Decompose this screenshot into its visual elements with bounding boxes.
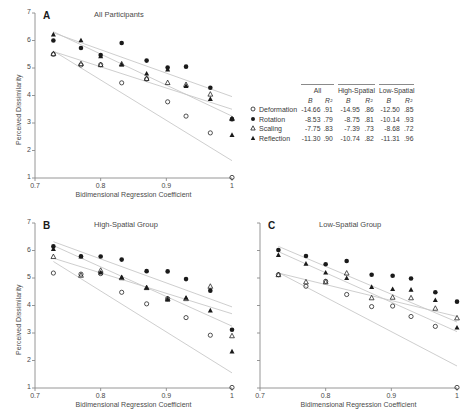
legend-low-b: -8.68 (377, 124, 401, 134)
data-point (455, 299, 460, 304)
legend-low-r2: .72 (401, 124, 417, 134)
data-point (144, 269, 149, 274)
legend-series-name: Reflection (259, 135, 290, 142)
data-point (98, 254, 103, 259)
data-point (230, 132, 235, 137)
legend-all-b: -11.30 (299, 134, 321, 144)
open-triangle-icon (250, 125, 259, 131)
y-tick-label: 1 (22, 383, 31, 390)
fit-line-deformation (53, 262, 232, 373)
data-point (304, 254, 309, 259)
y-tick-label: 2 (22, 356, 31, 363)
x-tick-label: 0.8 (92, 182, 110, 189)
data-point (120, 290, 124, 294)
legend-all-b: -8.53 (299, 115, 321, 125)
legend-row: Reflection-11.30.90-10.74.82-11.31.96 (247, 134, 416, 144)
y-tick-label: 5 (22, 273, 31, 280)
data-point (409, 314, 413, 318)
y-axis-label: Perceived Dissimilarity (15, 75, 22, 145)
x-tick-label: 1 (448, 392, 465, 399)
open-circle-icon (250, 106, 259, 112)
data-point (276, 248, 281, 253)
y-tick-label: 1 (22, 173, 31, 180)
panel-a: AAll Participants7654321Perceived Dissim… (0, 0, 240, 210)
data-point (184, 295, 189, 300)
y-tick-label: 6 (22, 246, 31, 253)
legend-subheader-r2-high: R² (361, 96, 377, 106)
panel-letter: C (268, 220, 275, 231)
data-point (51, 271, 55, 275)
data-point (208, 131, 212, 135)
data-point (409, 276, 414, 281)
x-axis-label: Bidimensional Regression Coefficient (76, 401, 192, 408)
legend-subheader-r2-low: R² (401, 96, 417, 106)
data-point (433, 306, 438, 311)
legend-group-all: All (299, 84, 336, 96)
fit-line-scaling (278, 273, 457, 316)
data-point (409, 295, 414, 300)
y-tick-label: 3 (22, 328, 31, 335)
legend-subheader-b-all: B (299, 96, 321, 106)
x-tick-label: 0.9 (157, 392, 175, 399)
x-tick-label: 0.7 (26, 182, 44, 189)
data-point (184, 316, 188, 320)
panel-letter: B (43, 220, 50, 231)
data-point (369, 272, 374, 277)
legend-all-r2: .79 (321, 115, 335, 125)
legend-subheader-row: B R² B R² B R² (247, 96, 416, 106)
x-tick-label: 1 (223, 182, 241, 189)
legend-low-b: -11.31 (377, 134, 401, 144)
x-tick-label: 0.7 (251, 392, 269, 399)
data-point (165, 269, 170, 274)
legend-subheader-r2-all: R² (321, 96, 335, 106)
legend-high-b: -14.95 (336, 105, 361, 115)
data-point (455, 325, 460, 330)
data-point (391, 304, 395, 308)
legend-all-b: -7.75 (299, 124, 321, 134)
data-point (208, 96, 213, 101)
data-point (119, 41, 124, 46)
panel-letter: A (43, 10, 50, 21)
y-tick-label: 4 (22, 301, 31, 308)
data-point (344, 259, 349, 264)
legend-high-b: -7.39 (336, 124, 361, 134)
x-tick-label: 0.9 (382, 392, 400, 399)
legend-low-r2: .85 (401, 105, 417, 115)
data-point (145, 302, 149, 306)
panel-c: CLow-Spatial Group0.70.80.91Bidimensiona… (228, 210, 465, 420)
data-point (433, 297, 438, 302)
legend-high-b: -8.75 (336, 115, 361, 125)
data-point (433, 324, 437, 328)
y-tick-label: 7 (22, 218, 31, 225)
y-tick-label: 4 (22, 91, 31, 98)
data-point (390, 274, 395, 279)
legend-high-r2: .73 (361, 124, 377, 134)
filled-triangle-icon (250, 135, 259, 141)
data-point (78, 38, 83, 43)
legend-row: Deformation-14.66.91-14.95.86-12.50.85 (247, 105, 416, 115)
y-axis-label: Perceived Dissimilarity (15, 285, 22, 355)
x-tick-label: 0.8 (317, 392, 335, 399)
data-point (166, 100, 170, 104)
data-point (323, 262, 328, 267)
x-tick-label: 0.8 (92, 392, 110, 399)
x-axis-label: Bidimensional Regression Coefficient (301, 401, 417, 408)
data-point (208, 86, 213, 91)
data-point (208, 92, 213, 97)
legend-high-r2: .86 (361, 105, 377, 115)
panel-a-plot (0, 0, 240, 210)
data-point (208, 308, 213, 313)
y-tick-label: 3 (22, 118, 31, 125)
data-point (370, 305, 374, 309)
data-point (409, 287, 414, 292)
filled-circle-icon (250, 116, 259, 122)
panel-title: Low-Spatial Group (319, 220, 381, 229)
data-point (144, 71, 149, 76)
legend-subheader-b-low: B (377, 96, 401, 106)
legend-high-b: -10.74 (336, 134, 361, 144)
legend-subheader-b-high: B (336, 96, 361, 106)
legend-series-name: Rotation (259, 116, 285, 123)
legend-label-rotation: Rotation (247, 115, 299, 125)
data-point (120, 81, 124, 85)
data-point (184, 114, 188, 118)
